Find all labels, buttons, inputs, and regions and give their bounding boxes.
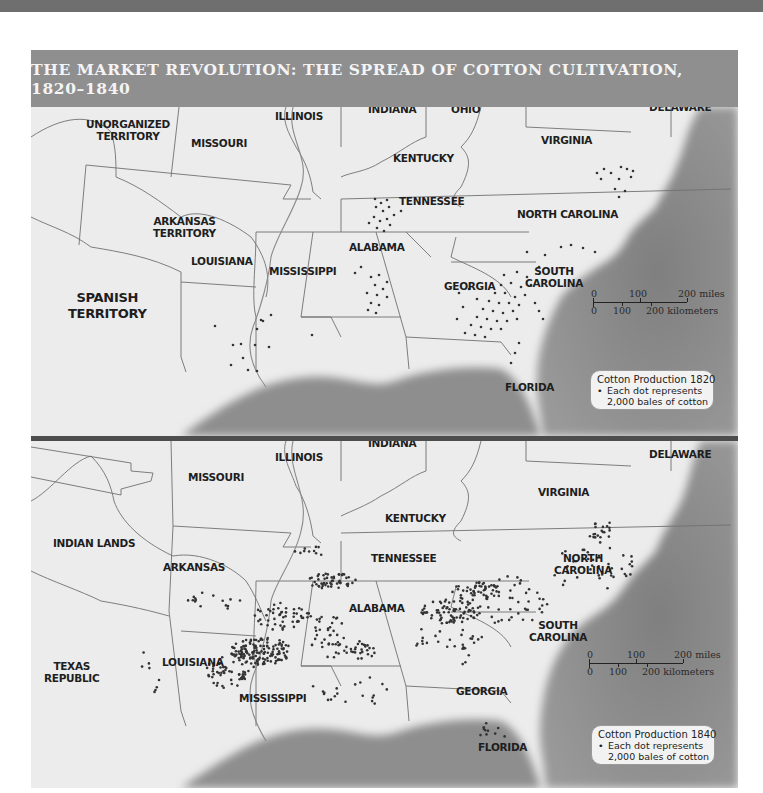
label-kentucky: KENTUCKY xyxy=(393,152,454,164)
scale-miles-0: 0 xyxy=(591,288,597,299)
legend-item-text: 2,000 bales of cotton xyxy=(607,396,708,407)
scale-tick xyxy=(683,659,684,663)
scale-miles-100: 100 xyxy=(629,288,647,299)
label-arkansas-territory: ARKANSAS TERRITORY xyxy=(153,215,216,239)
scale-km-200: 200 kilometers xyxy=(646,305,718,316)
label-tennessee: TENNESSEE xyxy=(371,552,436,564)
legend-item: Each dot represents xyxy=(598,740,708,751)
label-ohio: OHIO xyxy=(451,441,480,443)
legend-title: Cotton Production 1820 xyxy=(597,374,707,385)
label-indiana: INDIANA xyxy=(368,441,416,449)
label-indiana: INDIANA xyxy=(368,107,416,115)
legend-item-text: 2,000 bales of cotton xyxy=(608,751,709,762)
scale-km-0: 0 xyxy=(587,666,593,677)
label-north-carolina: NORTH CAROLINA xyxy=(554,552,612,576)
label-missouri: MISSOURI xyxy=(188,471,244,483)
label-louisiana: LOUISIANA xyxy=(162,656,224,668)
scale-tick xyxy=(636,659,637,663)
label-florida: FLORIDA xyxy=(505,381,554,393)
legend-title: Cotton Production 1840 xyxy=(598,729,708,740)
label-georgia: GEORGIA xyxy=(444,280,495,292)
scale-bar-1840: 0 100 200 miles 0 100 200 kilometers xyxy=(587,649,737,689)
scale-line xyxy=(593,302,687,303)
map-panel-1840: ILLINOIS INDIANA OHIO MARYLAND DELAWARE … xyxy=(31,441,738,788)
label-texas-republic: TEXAS REPUBLIC xyxy=(44,660,99,684)
scale-miles-200: 200 miles xyxy=(678,288,725,299)
label-delaware: DELAWARE xyxy=(649,448,711,460)
scale-km-100: 100 xyxy=(613,305,631,316)
scale-tick xyxy=(640,298,641,302)
label-indian-lands: INDIAN LANDS xyxy=(53,537,135,549)
gulf-of-mexico xyxy=(181,367,541,436)
legend-item: Each dot represents xyxy=(597,385,707,396)
label-mississippi: MISSISSIPPI xyxy=(269,265,336,277)
scale-miles-0: 0 xyxy=(587,649,593,660)
label-illinois: ILLINOIS xyxy=(275,110,323,122)
legend-1820: Cotton Production 1820 Each dot represen… xyxy=(590,370,714,410)
legend-1840: Cotton Production 1840 Each dot represen… xyxy=(591,725,715,765)
legend-item-cont: 2,000 bales of cotton xyxy=(597,396,707,407)
scale-km-200: 200 kilometers xyxy=(642,666,714,677)
label-louisiana: LOUISIANA xyxy=(191,255,253,267)
map-title: THE MARKET REVOLUTION: THE SPREAD OF COT… xyxy=(31,50,738,107)
scale-line xyxy=(589,663,683,664)
label-spanish-territory: SPANISH TERRITORY xyxy=(68,290,147,322)
label-delaware: DELAWARE xyxy=(649,107,711,113)
label-south-carolina: SOUTH CAROLINA xyxy=(525,265,583,289)
label-kentucky: KENTUCKY xyxy=(385,512,446,524)
label-unorganized-territory: UNORGANIZED TERRITORY xyxy=(86,118,170,142)
map-panel-1820: UNORGANIZED TERRITORY MISSOURI ILLINOIS … xyxy=(31,107,738,436)
label-illinois: ILLINOIS xyxy=(275,451,323,463)
label-mississippi: MISSISSIPPI xyxy=(239,692,306,704)
label-georgia: GEORGIA xyxy=(456,685,507,697)
top-strip xyxy=(0,0,763,12)
label-virginia: VIRGINIA xyxy=(538,486,589,498)
label-tennessee: TENNESSEE xyxy=(399,195,464,207)
label-alabama: ALABAMA xyxy=(349,602,405,614)
gulf-of-mexico xyxy=(181,719,541,788)
scale-bar-1820: 0 100 200 miles 0 100 200 kilometers xyxy=(591,288,738,328)
scale-km-0: 0 xyxy=(591,305,597,316)
label-ohio: OHIO xyxy=(451,107,480,115)
label-virginia: VIRGINIA xyxy=(541,134,592,146)
label-north-carolina: NORTH CAROLINA xyxy=(517,208,618,220)
legend-item-cont: 2,000 bales of cotton xyxy=(598,751,708,762)
label-arkansas: ARKANSAS xyxy=(163,561,225,573)
label-florida: FLORIDA xyxy=(478,741,527,753)
label-missouri: MISSOURI xyxy=(191,137,247,149)
scale-km-100: 100 xyxy=(609,666,627,677)
label-south-carolina: SOUTH CAROLINA xyxy=(529,619,587,643)
scale-tick xyxy=(687,298,688,302)
scale-miles-200: 200 miles xyxy=(674,649,721,660)
label-alabama: ALABAMA xyxy=(349,241,405,253)
